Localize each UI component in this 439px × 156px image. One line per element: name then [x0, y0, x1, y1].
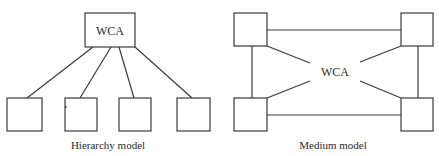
edge-wca-child-2: [80, 47, 111, 98]
figure: WCA Hierarchy model WCA Medium model: [0, 0, 439, 156]
edge-wca-child-3: [119, 47, 134, 98]
hierarchy-wca-label: WCA: [96, 24, 124, 38]
spoke-top-left: [267, 46, 310, 63]
child-node-1: [7, 98, 42, 131]
hierarchy-caption: Hierarchy model: [71, 139, 145, 151]
spoke-top-right: [360, 46, 401, 62]
child-node-2: [65, 98, 97, 131]
mark-dot: [65, 106, 67, 108]
spoke-bottom-left: [267, 81, 310, 98]
spoke-bottom-right: [360, 81, 401, 98]
child-node-4: [177, 98, 210, 131]
node-top-right: [401, 13, 433, 46]
child-node-3: [119, 98, 151, 131]
edge-wca-child-4: [135, 47, 192, 98]
node-top-left: [234, 13, 267, 46]
edge-wca-child-1: [27, 47, 93, 98]
medium-caption: Medium model: [299, 139, 367, 151]
node-bottom-left: [234, 98, 267, 131]
node-bottom-right: [401, 98, 433, 131]
medium-wca-label: WCA: [321, 65, 349, 79]
